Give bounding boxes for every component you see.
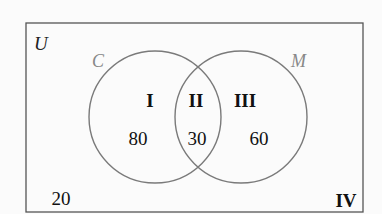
set-m-label: M [290, 51, 307, 71]
region-iii-label: III [234, 90, 256, 111]
region-iv-value: 20 [52, 188, 71, 209]
region-i-value: 80 [129, 128, 148, 149]
universe-label: U [34, 33, 49, 54]
universe-rectangle [26, 23, 363, 212]
region-ii-label: II [189, 90, 204, 111]
region-i-label: I [146, 90, 153, 111]
set-c-label: C [92, 51, 105, 71]
venn-diagram: U C M I II III IV 80 30 60 20 [0, 0, 382, 214]
region-ii-value: 30 [188, 128, 207, 149]
region-iii-value: 60 [250, 128, 269, 149]
region-iv-label: IV [335, 190, 356, 211]
